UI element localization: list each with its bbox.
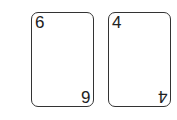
- playing-card-6[interactable]: 6 6: [31, 12, 94, 107]
- card-rank-top: 4: [112, 14, 121, 31]
- card-rank-bottom: 6: [81, 88, 90, 105]
- playing-card-4[interactable]: 4 4: [108, 12, 171, 107]
- card-rank-top: 6: [35, 14, 44, 31]
- card-rank-bottom: 4: [158, 88, 167, 105]
